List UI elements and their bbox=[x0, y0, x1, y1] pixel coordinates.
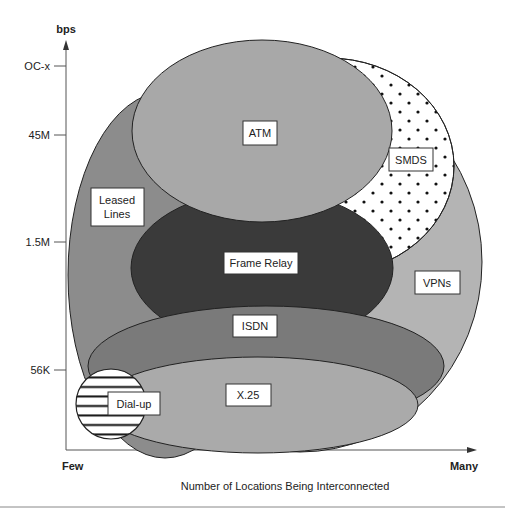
x25-label: X.25 bbox=[226, 384, 271, 406]
x-axis-label: Number of Locations Being Interconnected bbox=[181, 480, 390, 492]
frame-relay-label: Frame Relay bbox=[224, 252, 298, 274]
leased-lines-label: Leased Lines bbox=[91, 188, 144, 226]
svg-text:Frame Relay: Frame Relay bbox=[230, 257, 293, 269]
svg-text:ISDN: ISDN bbox=[242, 320, 268, 332]
wan-technologies-diagram: ATM SMDS Leased Lines Frame Relay VPNs I… bbox=[0, 0, 505, 513]
smds-label: SMDS bbox=[389, 148, 433, 171]
tick-1-5m: 1.5M bbox=[26, 236, 50, 248]
svg-text:Lines: Lines bbox=[104, 208, 131, 220]
vpns-label: VPNs bbox=[415, 271, 460, 294]
dialup-label: Dial-up bbox=[108, 392, 160, 415]
svg-text:SMDS: SMDS bbox=[395, 154, 427, 166]
svg-text:X.25: X.25 bbox=[237, 389, 260, 401]
svg-text:ATM: ATM bbox=[249, 127, 271, 139]
tick-oc-x: OC-x bbox=[24, 60, 50, 72]
svg-text:Dial-up: Dial-up bbox=[117, 398, 152, 410]
tick-45m: 45M bbox=[29, 129, 50, 141]
x-axis-max-label: Many bbox=[450, 460, 479, 472]
svg-text:Leased: Leased bbox=[99, 194, 135, 206]
svg-text:VPNs: VPNs bbox=[423, 277, 452, 289]
y-axis-label: bps bbox=[56, 23, 76, 35]
x-axis-min-label: Few bbox=[62, 460, 84, 472]
atm-label: ATM bbox=[243, 121, 277, 145]
y-axis bbox=[54, 40, 69, 450]
tick-56k: 56K bbox=[30, 364, 50, 376]
isdn-label: ISDN bbox=[233, 315, 277, 337]
